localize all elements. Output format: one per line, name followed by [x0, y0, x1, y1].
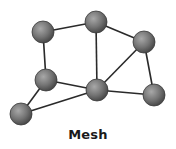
- diagram-caption: Mesh: [0, 127, 176, 142]
- nodes: [10, 11, 165, 125]
- node-n3: [133, 31, 155, 53]
- node-n6: [143, 84, 165, 106]
- node-n5: [86, 79, 108, 101]
- node-n2: [85, 11, 107, 33]
- node-n1: [32, 21, 54, 43]
- node-n7: [10, 103, 32, 125]
- node-n4: [35, 69, 57, 91]
- edge-n5-n7: [21, 90, 97, 114]
